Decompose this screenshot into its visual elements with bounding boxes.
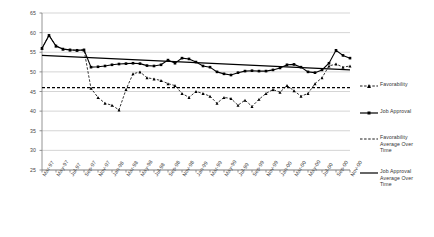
data-point <box>69 49 72 52</box>
data-point <box>174 62 177 65</box>
data-point <box>286 84 289 87</box>
y-axis-tick-label: 30 <box>14 147 36 153</box>
data-point <box>90 66 93 69</box>
data-point <box>132 72 135 75</box>
y-axis-tick-label: 40 <box>14 108 36 114</box>
data-point <box>97 65 100 68</box>
data-point <box>349 64 352 67</box>
data-point <box>272 69 275 72</box>
data-point <box>181 92 184 95</box>
y-axis-tick-label: 35 <box>14 128 36 134</box>
data-point <box>125 88 128 91</box>
data-point <box>258 70 261 73</box>
y-axis-tick-label: 25 <box>14 167 36 173</box>
legend-label-3: Favorability Average Over Time <box>380 134 434 154</box>
series-line-favorability <box>42 35 350 110</box>
data-point <box>223 96 226 99</box>
legend-swatch-1 <box>360 82 378 90</box>
data-point <box>139 62 142 65</box>
data-point <box>167 59 170 62</box>
data-point <box>300 66 303 69</box>
data-point <box>335 49 338 52</box>
data-point <box>209 95 212 98</box>
data-point <box>104 65 107 68</box>
y-axis-tick-label: 50 <box>14 69 36 75</box>
legend-label-2: Job Approval <box>380 108 434 115</box>
data-point <box>321 76 324 79</box>
data-point <box>160 79 163 82</box>
data-point <box>181 57 184 60</box>
data-point <box>293 63 296 66</box>
data-point <box>83 49 86 52</box>
data-point <box>349 57 352 60</box>
data-point <box>125 62 128 65</box>
data-point <box>265 92 268 95</box>
data-point <box>244 99 247 102</box>
data-point <box>237 71 240 74</box>
data-point <box>223 73 226 76</box>
data-point <box>111 104 114 107</box>
data-point <box>342 54 345 57</box>
y-axis-tick-label: 45 <box>14 89 36 95</box>
legend-swatch-3 <box>360 135 378 143</box>
data-point <box>132 62 135 65</box>
data-point <box>244 70 247 73</box>
data-point <box>258 98 261 101</box>
data-point <box>48 34 51 37</box>
data-point <box>41 47 44 50</box>
data-point <box>111 64 114 67</box>
y-axis-tick-label: 65 <box>14 10 36 16</box>
data-point <box>195 61 198 64</box>
data-point <box>97 96 100 99</box>
data-point <box>216 71 219 74</box>
data-point <box>76 49 79 52</box>
y-axis-tick-label: 60 <box>14 30 36 36</box>
data-point <box>118 108 121 111</box>
data-point <box>160 64 163 67</box>
data-point <box>286 64 289 67</box>
data-point <box>153 65 156 68</box>
y-axis-tick-label: 55 <box>14 49 36 55</box>
data-point <box>62 48 65 51</box>
series-line-job-approval <box>42 35 350 75</box>
data-point <box>251 69 254 72</box>
data-point <box>202 65 205 68</box>
data-point <box>328 62 331 65</box>
data-point <box>265 70 268 73</box>
data-point <box>146 64 149 67</box>
data-point <box>55 45 58 48</box>
data-point <box>118 63 121 66</box>
legend-label-1: Favorability <box>380 81 434 88</box>
chart-container: 253035404550556065 Mar-97May-97Jul-97Sep… <box>0 0 434 237</box>
data-point <box>314 71 317 74</box>
data-point <box>293 89 296 92</box>
data-point <box>279 67 282 70</box>
data-point <box>188 58 191 61</box>
line-chart-plot <box>0 0 434 237</box>
data-point <box>209 66 212 69</box>
data-point <box>321 69 324 72</box>
data-point <box>307 71 310 74</box>
legend-label-4: Job Approval Average Over Time <box>380 168 434 188</box>
legend-swatch-4 <box>360 169 378 177</box>
data-point <box>230 74 233 77</box>
legend-swatch-2 <box>360 109 378 117</box>
